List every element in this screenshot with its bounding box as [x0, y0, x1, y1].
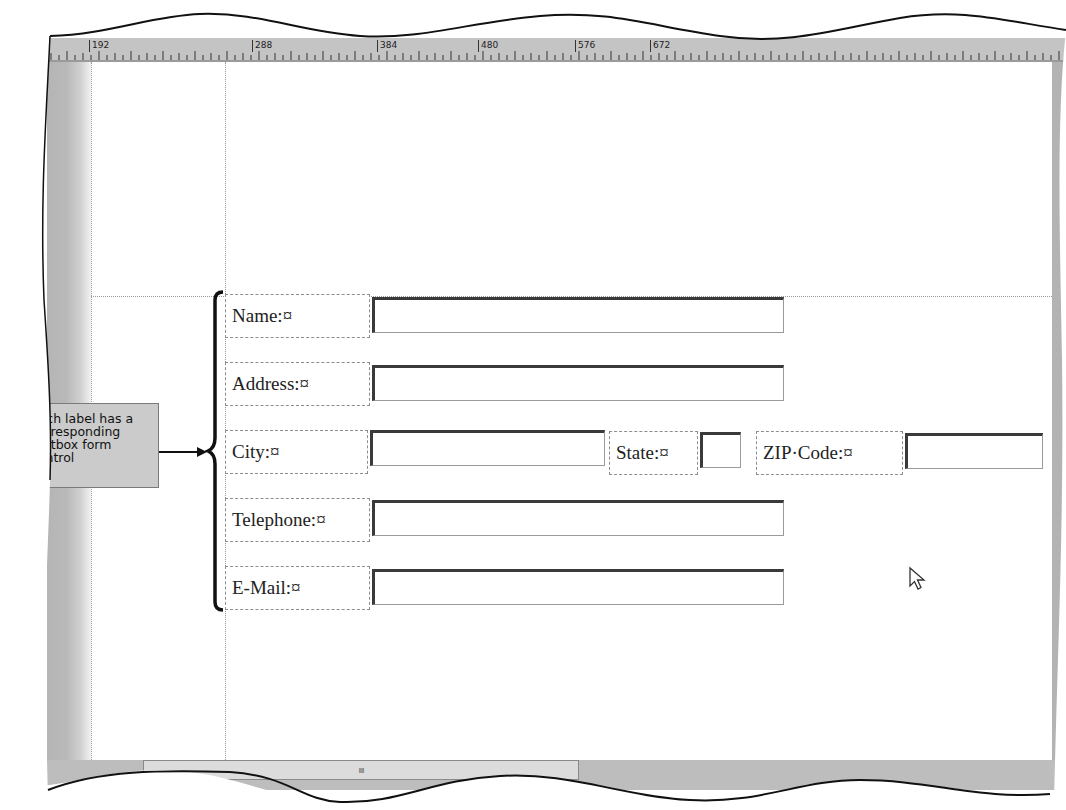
designer-window: 192 288 384 480 576 672 IIII	[47, 38, 1066, 790]
label-text: ZIP·Code:¤	[763, 442, 853, 464]
vertical-scrollbar[interactable]	[1052, 62, 1066, 760]
label-telephone[interactable]: Telephone:¤	[225, 498, 370, 542]
address-textbox[interactable]	[372, 365, 784, 401]
label-state[interactable]: State:¤	[609, 431, 698, 475]
label-city[interactable]: City:¤	[225, 430, 368, 474]
label-text: E-Mail:¤	[232, 577, 301, 599]
ruler-label: 480	[478, 40, 498, 52]
label-email[interactable]: E-Mail:¤	[225, 566, 370, 610]
label-name[interactable]: Name:¤	[225, 294, 370, 338]
scrollbar-grip-icon: IIII	[359, 766, 364, 775]
callout-box: each label has a corresponding textbox f…	[22, 403, 159, 488]
ruler-label: 576	[575, 40, 595, 52]
state-textbox[interactable]	[700, 432, 741, 468]
city-textbox[interactable]	[370, 430, 605, 466]
label-text: City:¤	[232, 441, 280, 463]
label-zip-code[interactable]: ZIP·Code:¤	[756, 431, 903, 475]
callout-arrow-icon	[159, 446, 209, 458]
ruler-label: 288	[252, 40, 272, 52]
scrollbar-thumb[interactable]: IIII	[143, 760, 579, 780]
form-design-surface	[91, 62, 1052, 760]
email-textbox[interactable]	[372, 569, 784, 605]
label-text: Telephone:¤	[232, 509, 326, 531]
label-text: Address:¤	[232, 373, 309, 395]
ruler-label: 192	[89, 40, 109, 52]
ruler-label: 384	[377, 40, 397, 52]
zip-textbox[interactable]	[905, 433, 1043, 469]
mouse-pointer-icon	[908, 566, 928, 594]
telephone-textbox[interactable]	[372, 500, 784, 536]
label-text: State:¤	[616, 442, 669, 464]
name-textbox[interactable]	[372, 297, 784, 333]
ruler-label: 672	[650, 40, 670, 52]
label-address[interactable]: Address:¤	[225, 362, 370, 406]
label-text: Name:¤	[232, 305, 292, 327]
horizontal-ruler: 192 288 384 480 576 672	[47, 38, 1066, 62]
ruler-ticks	[47, 38, 1066, 60]
callout-text: each label has a corresponding textbox f…	[31, 411, 133, 465]
horizontal-scrollbar[interactable]: IIII	[47, 760, 1066, 790]
